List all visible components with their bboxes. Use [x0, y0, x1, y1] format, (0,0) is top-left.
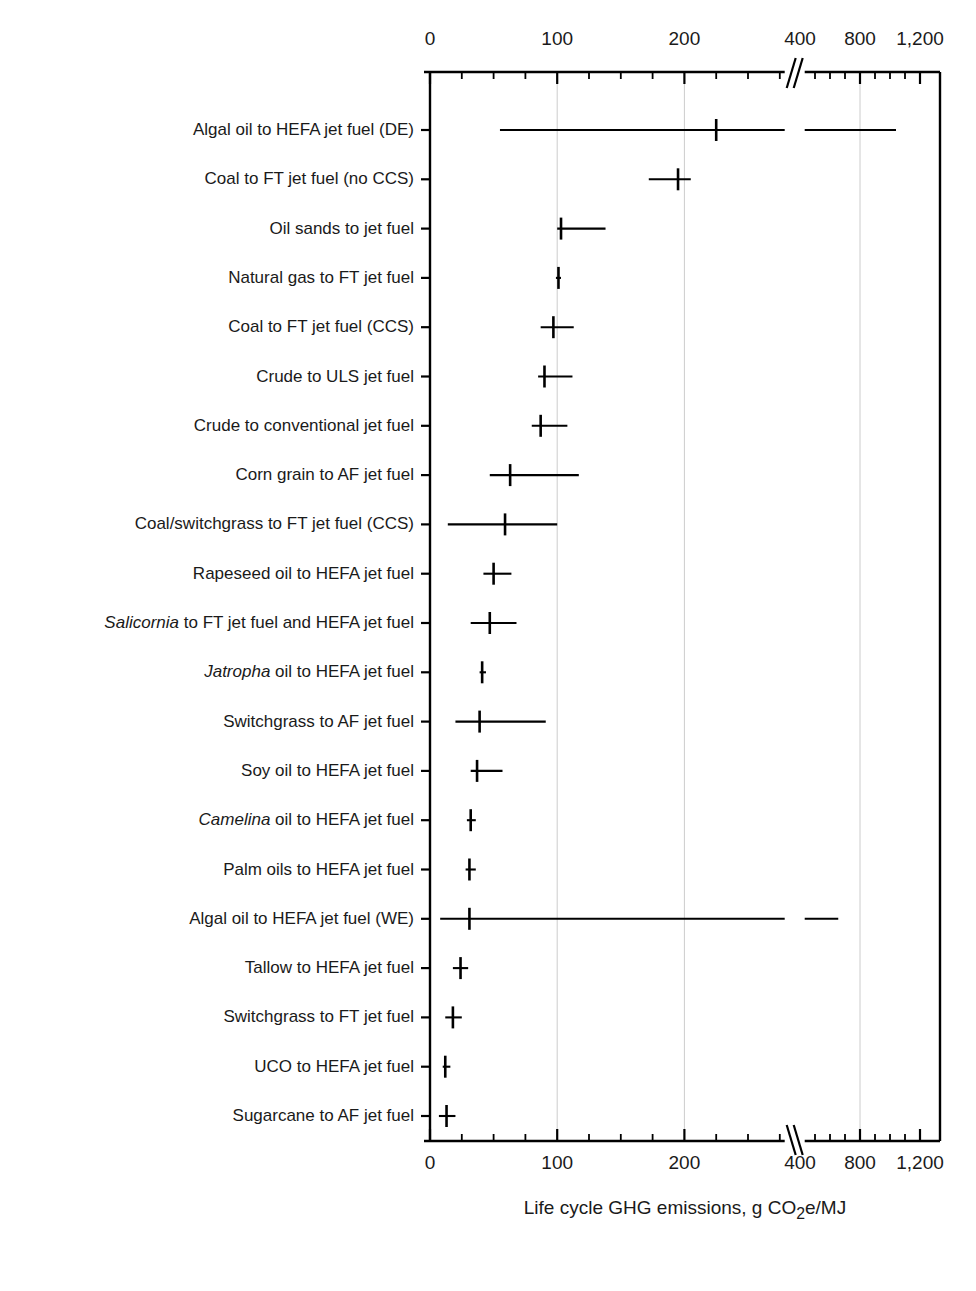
category-label-19: UCO to HEFA jet fuel — [254, 1057, 414, 1077]
category-label-7: Corn grain to AF jet fuel — [235, 465, 414, 485]
category-label-5: Crude to ULS jet fuel — [256, 367, 414, 387]
category-label-9: Rapeseed oil to HEFA jet fuel — [193, 564, 414, 584]
xtick-label-top-200: 200 — [669, 28, 701, 50]
data-point-row — [443, 1056, 451, 1078]
category-label-4: Coal to FT jet fuel (CCS) — [228, 317, 414, 337]
category-label-14: Camelina oil to HEFA jet fuel — [199, 810, 414, 830]
data-point-row — [480, 661, 486, 683]
data-point-row — [445, 1006, 462, 1028]
category-label-6: Crude to conventional jet fuel — [194, 416, 414, 436]
xtick-label-top-1200: 1,200 — [896, 28, 944, 50]
xtick-label-bottom-0: 0 — [425, 1152, 436, 1174]
data-point-row — [448, 513, 557, 535]
xtick-label-bottom-400: 400 — [784, 1152, 816, 1174]
xtick-label-bottom-200: 200 — [669, 1152, 701, 1174]
data-point-row — [440, 908, 838, 930]
data-point-row — [557, 218, 605, 240]
category-label-3: Natural gas to FT jet fuel — [228, 268, 414, 288]
category-label-13: Soy oil to HEFA jet fuel — [241, 761, 414, 781]
category-label-15: Palm oils to HEFA jet fuel — [223, 860, 414, 880]
co2-subscript: 2 — [796, 1205, 805, 1222]
xtick-label-top-0: 0 — [425, 28, 436, 50]
species-name: Jatropha — [204, 662, 270, 681]
category-label-11: Jatropha oil to HEFA jet fuel — [204, 662, 414, 682]
xtick-label-bottom-800: 800 — [844, 1152, 876, 1174]
data-point-row — [538, 366, 572, 388]
category-label-8: Coal/switchgrass to FT jet fuel (CCS) — [135, 514, 414, 534]
data-point-row — [467, 809, 476, 831]
data-point-row — [466, 859, 476, 881]
data-point-row — [556, 267, 561, 289]
data-point-row — [500, 119, 896, 141]
xtick-label-top-100: 100 — [541, 28, 573, 50]
data-point-row — [439, 1105, 456, 1127]
species-name: Camelina — [199, 810, 271, 829]
xtick-label-bottom-1200: 1,200 — [896, 1152, 944, 1174]
category-label-12: Switchgrass to AF jet fuel — [223, 712, 414, 732]
xtick-label-bottom-100: 100 — [541, 1152, 573, 1174]
category-label-18: Switchgrass to FT jet fuel — [223, 1007, 414, 1027]
data-point-row — [532, 415, 568, 437]
data-point-row — [471, 612, 517, 634]
xtick-label-top-400: 400 — [784, 28, 816, 50]
data-point-row — [471, 760, 503, 782]
x-axis-title: Life cycle GHG emissions, g CO2e/MJ — [524, 1197, 846, 1223]
species-name: Salicornia — [104, 613, 179, 632]
data-point-row — [483, 563, 511, 585]
ghg-emissions-range-chart — [0, 0, 976, 1291]
category-label-0: Algal oil to HEFA jet fuel (DE) — [193, 120, 414, 140]
chart-container: Algal oil to HEFA jet fuel (DE)Coal to F… — [0, 0, 976, 1291]
xtick-label-top-800: 800 — [844, 28, 876, 50]
category-label-10: Salicornia to FT jet fuel and HEFA jet f… — [104, 613, 414, 633]
data-point-row — [490, 464, 579, 486]
category-label-17: Tallow to HEFA jet fuel — [245, 958, 414, 978]
category-label-16: Algal oil to HEFA jet fuel (WE) — [189, 909, 414, 929]
category-label-20: Sugarcane to AF jet fuel — [233, 1106, 414, 1126]
data-point-row — [453, 957, 468, 979]
category-label-1: Coal to FT jet fuel (no CCS) — [205, 169, 414, 189]
data-point-row — [455, 711, 545, 733]
category-label-2: Oil sands to jet fuel — [269, 219, 414, 239]
